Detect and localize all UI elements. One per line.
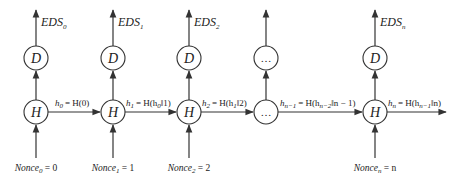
h-node-label: H (30, 105, 42, 120)
h-node-label: H (107, 105, 119, 120)
edge-2-label: h2= H(h1‖2) (202, 98, 247, 110)
d-node-label: D (30, 51, 41, 66)
nonce-label: Nonce2 = 2 (167, 163, 211, 175)
d-node-label: D (183, 51, 194, 66)
column-0: EDS0 D H Nonce0 = 0 (14, 10, 67, 175)
column-n: EDSn D H Noncen = n (353, 10, 406, 175)
nonce-label: Nonce1 = 1 (91, 163, 135, 175)
edge-0-label: h0= H(0) (55, 98, 89, 110)
column-2: EDS2 D H Nonce2 = 2 (167, 10, 220, 175)
h-node-label: H (369, 105, 381, 120)
eds-label: EDS0 (40, 15, 67, 31)
edge-n-label: hn= H(hn−1‖n) (388, 98, 441, 110)
hash-chain-diagram: EDS0 D H Nonce0 = 0 EDS1 D H Nonce1 = 1 … (0, 0, 460, 178)
h-node-label: H (183, 105, 195, 120)
d-node-label: D (107, 51, 118, 66)
edge-n-minus-1-label: hn−1= H(hn−2‖n − 1) (280, 98, 355, 110)
edge-1-label: h1= H(h0‖1) (126, 98, 171, 110)
eds-label: EDS1 (117, 15, 144, 31)
diagram-svg: EDS0 D H Nonce0 = 0 EDS1 D H Nonce1 = 1 … (0, 0, 460, 178)
eds-label: EDSn (379, 15, 406, 31)
nonce-label: Noncen = n (353, 163, 397, 175)
ellipsis-label-top: … (261, 52, 272, 64)
column-1: EDS1 D H Nonce1 = 1 (91, 10, 144, 175)
eds-label: EDS2 (193, 15, 220, 31)
nonce-label: Nonce0 = 0 (14, 163, 58, 175)
d-node-label: D (369, 51, 380, 66)
column-ellipsis: … … (254, 10, 278, 124)
ellipsis-label-bottom: … (261, 106, 272, 118)
